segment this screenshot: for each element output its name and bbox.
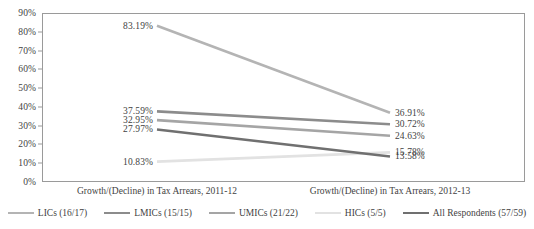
series-line (157, 152, 390, 161)
legend-item[interactable]: HICs (5/5) (315, 208, 386, 218)
y-axis-tick-label: 30% (18, 121, 36, 131)
data-label: 30.72% (395, 119, 425, 129)
legend-label: LICs (16/17) (38, 208, 87, 218)
series-line (157, 26, 390, 113)
legend-swatch (315, 212, 341, 215)
y-axis-tick-label: 60% (18, 64, 36, 74)
chart-legend: LICs (16/17)LMICs (15/15)UMICs (21/22)HI… (0, 203, 534, 223)
y-axis-tick-label: 50% (18, 83, 36, 93)
legend-item[interactable]: LMICs (15/15) (104, 208, 192, 218)
legend-label: UMICs (21/22) (239, 208, 298, 218)
data-label: 10.83% (123, 157, 153, 167)
y-axis-tick-label: 20% (18, 139, 36, 149)
legend-label: HICs (5/5) (345, 208, 386, 218)
x-axis-category-label: Growth/(Decline) in Tax Arrears, 2012-13 (310, 186, 470, 196)
data-label: 13.58% (395, 151, 425, 161)
legend-label: LMICs (15/15) (134, 208, 192, 218)
legend-item[interactable]: UMICs (21/22) (209, 208, 298, 218)
y-axis-tick-label: 90% (18, 8, 36, 18)
y-axis-tick-label: 10% (18, 158, 36, 168)
legend-label: All Respondents (57/59) (433, 208, 526, 218)
y-axis-tick-label: 80% (18, 27, 36, 37)
data-label: 24.63% (395, 131, 425, 141)
data-label: 36.91% (395, 108, 425, 118)
legend-swatch (8, 212, 34, 215)
y-axis-tick-label: 40% (18, 102, 36, 112)
y-axis-tick-label: 0% (23, 177, 36, 187)
chart-lines (42, 13, 525, 182)
legend-item[interactable]: All Respondents (57/59) (403, 208, 526, 218)
x-axis: Growth/(Decline) in Tax Arrears, 2011-12… (42, 184, 525, 200)
legend-swatch (209, 212, 235, 215)
data-label: 83.19% (123, 21, 153, 31)
y-axis-tick-label: 70% (18, 46, 36, 56)
data-label: 27.97% (123, 124, 153, 134)
legend-swatch (104, 212, 130, 215)
legend-item[interactable]: LICs (16/17) (8, 208, 87, 218)
legend-swatch (403, 212, 429, 215)
x-axis-category-label: Growth/(Decline) in Tax Arrears, 2011-12 (77, 186, 237, 196)
y-axis: 0%10%20%30%40%50%60%70%80%90% (0, 13, 42, 182)
